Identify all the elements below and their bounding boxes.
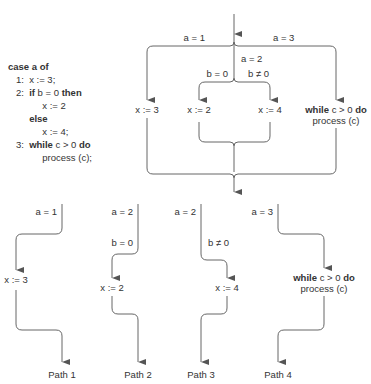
- flow-diagram: a = 1 a = 3 a = 2 b = 0 b ≠ 0 x := 3 x :…: [0, 0, 371, 384]
- edge-bne0: [234, 78, 270, 100]
- label-b0: b = 0: [207, 68, 228, 79]
- label-a2: a = 2: [241, 53, 262, 64]
- node-x3: x := 3: [135, 104, 159, 115]
- edge-b0: [199, 78, 234, 100]
- label-a3: a = 3: [273, 32, 294, 43]
- join-while: [234, 128, 336, 178]
- join-x3: [147, 118, 234, 178]
- path4-node-process: process (c): [301, 283, 348, 294]
- node-process: process (c): [313, 115, 360, 126]
- path-1-diagram: a = 1 x := 3 Path 1: [4, 204, 75, 380]
- path1-label-guard: a = 1: [36, 206, 57, 217]
- path4-edge-exit: [278, 296, 324, 362]
- path2-title: Path 2: [124, 369, 151, 380]
- path4-edge-a3: [278, 204, 324, 268]
- node-while: while c > 0 do: [304, 104, 367, 115]
- path1-title: Path 1: [48, 369, 75, 380]
- join-x2: [199, 122, 234, 146]
- label-bne0: b ≠ 0: [248, 68, 269, 79]
- path3-node: x := 4: [215, 282, 239, 293]
- path2-label-a2: a = 2: [112, 206, 133, 217]
- path3-label-bne0: b ≠ 0: [208, 237, 229, 248]
- path3-title: Path 3: [187, 369, 214, 380]
- path4-label-a3: a = 3: [252, 206, 273, 217]
- node-x4: x := 4: [258, 104, 282, 115]
- path2-label-b0: b = 0: [112, 237, 133, 248]
- path2-node: x := 2: [100, 282, 124, 293]
- combined-flowgraph: a = 1 a = 3 a = 2 b = 0 b ≠ 0 x := 3 x :…: [135, 14, 367, 192]
- path4-title: Path 4: [264, 369, 291, 380]
- path1-node: x := 3: [4, 274, 28, 285]
- path4-node-while: while c > 0 do: [292, 272, 355, 283]
- path1-edge-exit: [16, 290, 62, 362]
- label-a1: a = 1: [184, 32, 205, 43]
- path3-label-a2: a = 2: [175, 206, 196, 217]
- node-x2: x := 2: [187, 104, 211, 115]
- path-2-diagram: a = 2 b = 0 x := 2 Path 2: [100, 204, 151, 380]
- path2-edge-exit: [112, 296, 138, 362]
- join-x4: [234, 122, 270, 146]
- path-4-diagram: a = 3 while c > 0 do process (c) Path 4: [252, 204, 355, 380]
- path3-edge-exit: [201, 296, 227, 362]
- path-3-diagram: a = 2 b ≠ 0 x := 4 Path 3: [175, 204, 239, 380]
